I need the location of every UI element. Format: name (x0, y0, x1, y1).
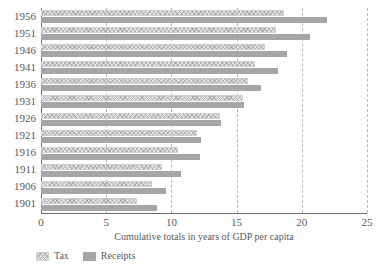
gridline-25 (367, 8, 368, 213)
bar-receipts-1941 (41, 68, 278, 74)
y-axis-label-1941: 1941 (0, 62, 36, 73)
bar-tax-1941 (41, 61, 255, 67)
bar-group-1926 (41, 111, 367, 128)
bar-group-1906 (41, 179, 367, 196)
bar-receipts-1946 (41, 51, 287, 57)
x-axis-tick-0: 0 (26, 216, 56, 228)
bar-tax-1956 (41, 10, 284, 16)
bar-receipts-1926 (41, 120, 221, 126)
bar-receipts-1956 (41, 17, 327, 23)
bar-tax-1906 (41, 181, 152, 187)
bar-receipts-1921 (41, 137, 201, 143)
x-axis-tick-10: 10 (156, 216, 186, 228)
plot-area (41, 8, 367, 213)
y-axis-label-1956: 1956 (0, 11, 36, 22)
x-axis-title: Cumulative totals in years of GDP per ca… (41, 231, 367, 243)
bar-tax-1911 (41, 164, 162, 170)
y-axis-label-1916: 1916 (0, 147, 36, 158)
bar-tax-1916 (41, 147, 178, 153)
bar-receipts-1931 (41, 102, 244, 108)
y-axis-label-1936: 1936 (0, 79, 36, 90)
bar-tax-1926 (41, 113, 220, 119)
x-axis-tick-25: 25 (352, 216, 382, 228)
x-axis-line (41, 213, 367, 214)
bar-receipts-1916 (41, 154, 200, 160)
bar-group-1941 (41, 59, 367, 76)
bar-chart: 1956195119461941193619311926192119161911… (0, 0, 391, 272)
bar-tax-1946 (41, 44, 265, 50)
x-axis-tick-20: 20 (287, 216, 317, 228)
bar-tax-1951 (41, 27, 276, 33)
bar-group-1921 (41, 128, 367, 145)
bar-group-1911 (41, 162, 367, 179)
bar-tax-1901 (41, 198, 137, 204)
chart-legend: TaxReceipts (36, 250, 135, 262)
bar-group-1916 (41, 145, 367, 162)
bar-group-1951 (41, 25, 367, 42)
y-axis-label-1911: 1911 (0, 164, 36, 175)
bar-receipts-1911 (41, 171, 181, 177)
y-axis-label-1951: 1951 (0, 28, 36, 39)
bar-receipts-1951 (41, 34, 310, 40)
x-axis-tick-5: 5 (91, 216, 121, 228)
y-axis-label-1946: 1946 (0, 45, 36, 56)
bar-group-1901 (41, 196, 367, 213)
legend-label-tax: Tax (54, 250, 69, 262)
y-axis-label-1921: 1921 (0, 130, 36, 141)
bar-group-1946 (41, 42, 367, 59)
bar-group-1931 (41, 93, 367, 110)
bar-receipts-1901 (41, 205, 157, 211)
legend-item-receipts[interactable]: Receipts (83, 250, 135, 262)
x-axis-tick-15: 15 (222, 216, 252, 228)
bar-receipts-1936 (41, 85, 261, 91)
y-axis-label-1906: 1906 (0, 181, 36, 192)
bar-tax-1931 (41, 95, 243, 101)
bar-tax-1936 (41, 78, 248, 84)
bar-receipts-1906 (41, 188, 166, 194)
y-axis-label-1931: 1931 (0, 96, 36, 107)
y-axis-label-1901: 1901 (0, 198, 36, 209)
y-axis-label-1926: 1926 (0, 113, 36, 124)
bar-group-1936 (41, 76, 367, 93)
tax-swatch (36, 252, 49, 261)
legend-label-receipts: Receipts (101, 250, 135, 262)
legend-item-tax[interactable]: Tax (36, 250, 69, 262)
bar-group-1956 (41, 8, 367, 25)
receipts-swatch (83, 252, 96, 261)
bar-tax-1921 (41, 130, 197, 136)
